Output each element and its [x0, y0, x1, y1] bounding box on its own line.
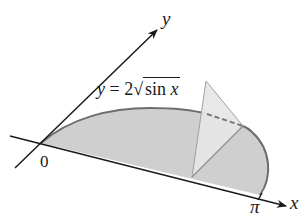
curve-equation-label: y = 2√sin x	[97, 80, 180, 98]
solid-figure: y x 0 π y = 2√sin x	[0, 0, 302, 223]
equation-lhs: y	[97, 79, 105, 99]
radical-sign: √	[133, 79, 143, 99]
figure-canvas	[0, 0, 302, 223]
equation-equals: =	[110, 79, 120, 99]
equation-coefficient: 2	[124, 79, 133, 99]
x-axis-label: x	[290, 193, 298, 212]
pi-label: π	[250, 197, 260, 216]
origin-label: 0	[40, 153, 49, 170]
y-axis-label: y	[162, 9, 170, 28]
radicand: sin x	[143, 77, 180, 99]
radicand-variable: x	[171, 79, 179, 99]
sqrt-expression: √sin x	[133, 80, 179, 98]
radicand-function: sin	[145, 79, 166, 99]
